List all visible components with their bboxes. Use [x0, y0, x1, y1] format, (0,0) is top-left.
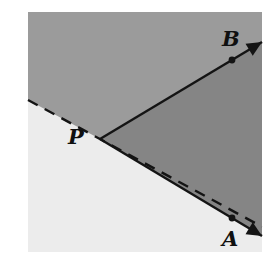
point-label-P: P — [68, 126, 84, 147]
point-label-A: A — [222, 228, 238, 249]
point-label-B: B — [222, 28, 240, 49]
point-marker-B — [229, 57, 236, 64]
point-marker-A — [229, 215, 236, 222]
geometry-figure: P B A — [0, 0, 278, 270]
